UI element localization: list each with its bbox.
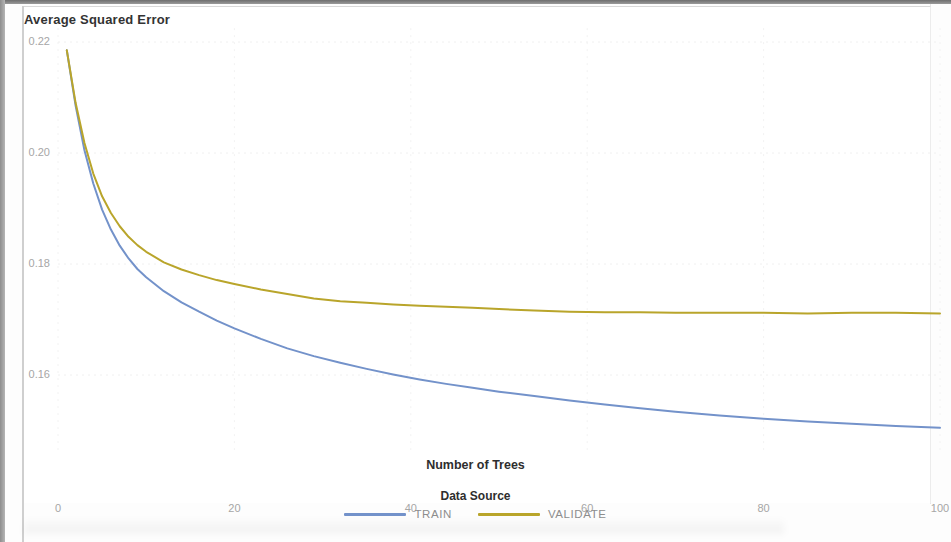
- legend-item-validate[interactable]: VALIDATE: [478, 508, 607, 520]
- y-axis-tick-label: 0.16: [10, 368, 50, 380]
- x-axis-label: Number of Trees: [0, 458, 951, 472]
- legend-color-swatch: [344, 513, 406, 516]
- legend-color-swatch: [478, 513, 540, 516]
- legend-item-train[interactable]: TRAIN: [344, 508, 452, 520]
- y-axis-tick-label: 0.20: [10, 146, 50, 158]
- chart-series-layer: [67, 50, 940, 427]
- series-line-train: [67, 50, 940, 427]
- legend-item-label: VALIDATE: [548, 508, 607, 520]
- legend-item-label: TRAIN: [414, 508, 452, 520]
- legend-title: Data Source: [0, 489, 951, 503]
- chart-gridlines: [58, 28, 940, 450]
- legend: TRAINVALIDATE: [0, 508, 951, 520]
- scanned-page-frame: Average Squared Error 0.160.180.200.22 0…: [0, 0, 951, 542]
- series-line-validate: [67, 50, 940, 313]
- y-axis-tick-label: 0.22: [10, 35, 50, 47]
- y-axis-tick-label: 0.18: [10, 257, 50, 269]
